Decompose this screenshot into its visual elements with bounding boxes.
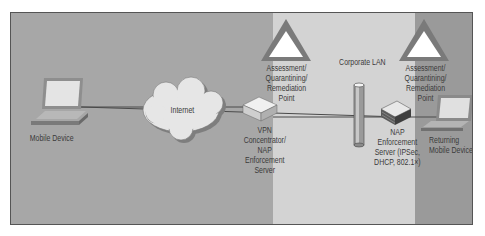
nap-server-icon: [381, 101, 411, 125]
vpn-concentrator-label: VPN Concentrator/ NAP Enforcement Server: [244, 125, 286, 175]
corporate-lan-label: Corporate LAN: [339, 57, 385, 67]
laptop-icon: [31, 78, 88, 125]
diagram-art: [11, 13, 473, 225]
assessment-triangle-left-icon: [261, 19, 311, 61]
mobile-device-label: Mobile Device: [30, 133, 74, 143]
assessment-triangle-right-icon: [399, 19, 449, 61]
lan-backbone-icon: [354, 83, 364, 147]
internet-label: Internet: [171, 105, 195, 115]
assessment-left-label: Assessment/ Quarantining/ Remediation Po…: [266, 63, 308, 103]
diagram-frame: Mobile Device Internet VPN Concentrator/…: [10, 12, 473, 225]
connection-line: [81, 107, 401, 117]
returning-device-label: Returning Mobile Device: [429, 135, 473, 155]
assessment-right-label: Assessment/ Quarantining/ Remediation Po…: [405, 63, 447, 103]
nap-server-label: NAP Enforcement Server (IPSec, DHCP, 802…: [374, 127, 421, 167]
